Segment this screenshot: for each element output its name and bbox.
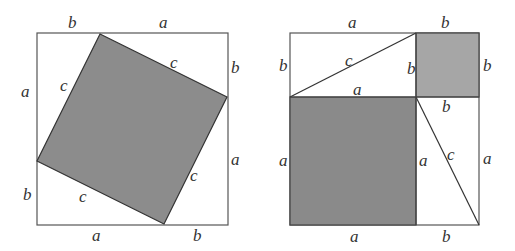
label-c-upper-right: c	[170, 53, 178, 72]
label-c-lower-right: c	[190, 166, 198, 185]
label-top-a: a	[159, 13, 168, 32]
pythagorean-proof-diagram: b a b a a b a b c c c c a b b a b a a b …	[0, 0, 515, 251]
left-figure: b a b a a b a b c c c c	[21, 13, 240, 245]
label-inner-b-vertical: b	[407, 59, 416, 78]
label-top-b: b	[441, 13, 450, 32]
label-right-b: b	[483, 56, 492, 75]
label-top-b: b	[68, 13, 77, 32]
label-inner-b-horizontal: b	[442, 97, 451, 116]
label-c-lower-left: c	[79, 187, 87, 206]
label-left-b: b	[279, 56, 288, 75]
label-bottom-a: a	[92, 226, 101, 245]
label-diag-c-top: c	[345, 51, 353, 70]
label-left-a: a	[279, 151, 288, 170]
label-left-b: b	[23, 185, 32, 204]
label-bottom-a: a	[350, 227, 359, 246]
label-inner-a-horizontal: a	[353, 80, 362, 99]
label-right-a: a	[231, 150, 240, 169]
label-c-upper-left: c	[60, 76, 68, 95]
right-figure: a b b a b a a b b a b a c c	[279, 13, 492, 246]
label-bottom-b: b	[193, 226, 202, 245]
label-inner-a-vertical: a	[419, 151, 428, 170]
label-top-a: a	[348, 13, 357, 32]
label-right-a: a	[483, 149, 492, 168]
label-bottom-b: b	[442, 227, 451, 246]
label-diag-c-right: c	[447, 145, 455, 164]
a-squared-square	[290, 97, 416, 225]
label-left-a: a	[21, 82, 30, 101]
label-right-b: b	[231, 58, 240, 77]
b-squared-square	[416, 33, 479, 97]
